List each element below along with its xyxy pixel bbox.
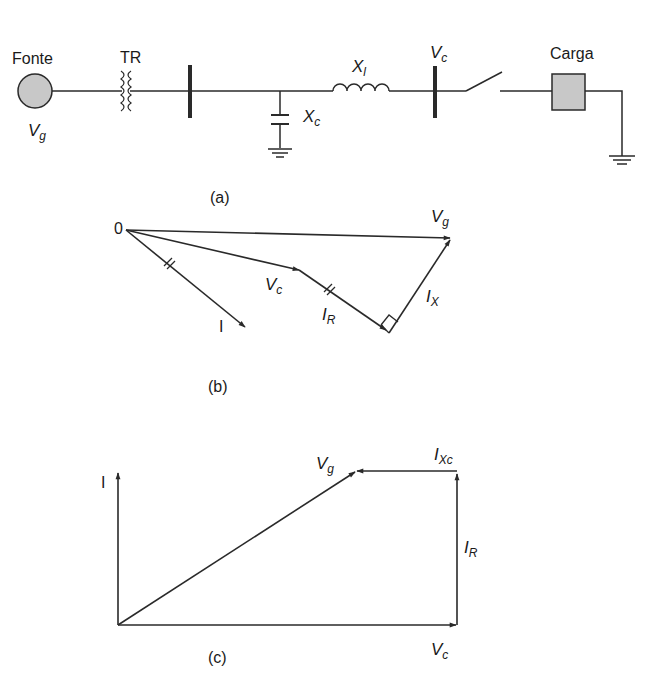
transformer-icon	[121, 71, 131, 111]
ix-label: IX	[426, 287, 440, 309]
i-label: I	[101, 474, 105, 491]
switch-icon	[466, 72, 502, 91]
ground-icon	[609, 156, 635, 164]
figure-a-circuit: Fonte Vg TR Xc Xl	[12, 43, 635, 206]
ground-icon	[268, 149, 292, 157]
phasor-ir	[299, 270, 386, 330]
vc-label: Vc	[265, 275, 282, 297]
figure-b-phasor: 0 Vg I Vc IR IX (b)	[114, 207, 450, 395]
source-label: Fonte	[12, 50, 53, 67]
caption-c: (c)	[208, 649, 227, 666]
caption-a: (a)	[210, 189, 230, 206]
phasor-ix	[389, 240, 450, 333]
right-angle-marker	[381, 325, 389, 333]
bus-voltage-label: Vc	[430, 43, 447, 65]
ir-label: IR	[322, 305, 336, 327]
transformer-label: TR	[120, 49, 141, 66]
source-voltage-label: Vg	[28, 121, 46, 143]
load-label: Carga	[550, 45, 594, 62]
phasor-vg	[126, 230, 450, 238]
origin-label: 0	[114, 220, 123, 237]
load-icon	[552, 74, 585, 110]
inductor-icon	[333, 84, 389, 91]
source-icon	[18, 74, 52, 108]
vg-label: Vg	[316, 454, 334, 476]
capacitor-label: Xc	[302, 107, 320, 129]
line-segment	[585, 91, 622, 156]
figure-c-phasor: I Vc IR IXc Vg (c)	[101, 445, 478, 666]
vg-label: Vg	[431, 207, 449, 229]
i-label: I	[219, 318, 223, 335]
capacitor-icon	[271, 91, 289, 148]
ixc-label: IXc	[434, 445, 453, 467]
ir-label: IR	[464, 538, 478, 560]
circuit-and-phasor-diagram: Fonte Vg TR Xc Xl	[0, 0, 669, 687]
caption-b: (b)	[208, 378, 228, 395]
inductor-label: Xl	[351, 57, 366, 79]
phasor-vc	[126, 230, 299, 270]
vc-label: Vc	[431, 640, 448, 662]
phasor-vg	[118, 472, 355, 625]
